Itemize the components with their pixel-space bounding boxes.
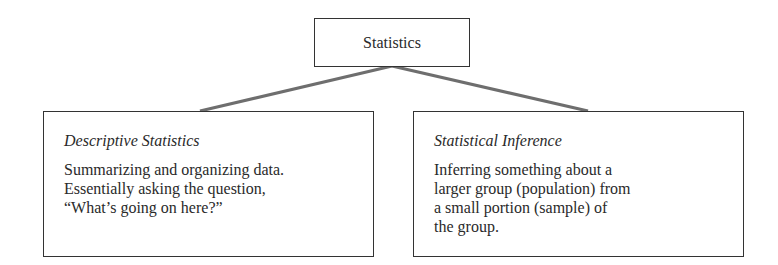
node-description: Inferring something about a larger group… [434,160,743,236]
root-node-label: Statistics [363,34,421,52]
description-line: a small portion (sample) of [434,198,743,217]
connector-right [392,66,588,111]
node-descriptive-statistics: Descriptive Statistics Summarizing and o… [43,111,374,257]
description-line: larger group (population) from [434,179,743,198]
description-line: the group. [434,217,743,236]
description-line: Inferring something about a [434,160,743,179]
description-line: Summarizing and organizing data. [64,160,373,179]
description-line: Essentially asking the question, [64,179,373,198]
node-description: Summarizing and organizing data. Essenti… [64,160,373,217]
root-node-statistics: Statistics [314,18,470,67]
description-line: “What’s going on here?” [64,198,373,217]
node-title: Descriptive Statistics [64,132,373,150]
node-title: Statistical Inference [434,132,743,150]
connector-left [200,66,392,111]
node-statistical-inference: Statistical Inference Inferring somethin… [413,111,744,257]
